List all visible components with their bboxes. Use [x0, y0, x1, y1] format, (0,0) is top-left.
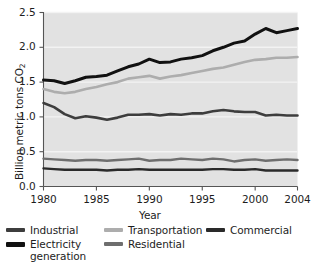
x-tick-label: 2000 [235, 193, 275, 205]
legend-label-transportation: Transportation [128, 224, 202, 236]
legend-label-electricity-generation: Electricitygeneration [30, 238, 86, 262]
legend-label-electricity-line2: generation [30, 250, 86, 262]
legend-label-industrial: Industrial [30, 224, 78, 236]
y-tick-label: 2.5 [10, 6, 36, 18]
legend-item-commercial: Commercial [206, 224, 292, 236]
legend-item-residential: Residential [104, 238, 185, 250]
series-line-commercial [44, 168, 298, 170]
y-tick-label: 0.0 [10, 180, 36, 192]
y-axis-title-subscript: 2 [18, 63, 27, 68]
y-tick-label: 0.5 [10, 145, 36, 157]
y-tick-label: 1.5 [10, 75, 36, 87]
x-tick-label: 2004 [278, 193, 316, 205]
x-tick-label: 1995 [182, 193, 222, 205]
chart-legend: Industrial Electricitygeneration Transpo… [6, 224, 309, 270]
legend-swatch-electricity-generation [6, 242, 25, 247]
x-tick-label: 1985 [76, 193, 116, 205]
chart-figure: Billion metric tons CO2 Year 2.52.01.51.… [0, 0, 315, 271]
legend-swatch-industrial [6, 228, 25, 232]
legend-swatch-residential [104, 242, 123, 246]
x-tick-label: 1980 [24, 193, 64, 205]
y-tick-label: 2.0 [10, 40, 36, 52]
legend-label-commercial: Commercial [230, 224, 292, 236]
legend-item-industrial: Industrial [6, 224, 78, 236]
x-axis-title: Year [139, 209, 161, 221]
x-tick-label: 1990 [129, 193, 169, 205]
legend-swatch-transportation [104, 228, 123, 232]
legend-swatch-commercial [206, 228, 225, 232]
legend-label-electricity-line1: Electricity [30, 238, 81, 250]
legend-label-residential: Residential [128, 238, 185, 250]
legend-item-electricity-generation: Electricitygeneration [6, 238, 86, 262]
legend-item-transportation: Transportation [104, 224, 202, 236]
y-tick-label: 1.0 [10, 110, 36, 122]
